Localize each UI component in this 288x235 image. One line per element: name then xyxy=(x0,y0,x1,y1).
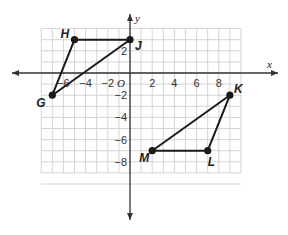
vertex-label-G: G xyxy=(36,96,45,110)
vertex-label-J: J xyxy=(135,39,142,53)
vertex-point-H xyxy=(71,36,78,43)
x-tick-label: 8 xyxy=(216,77,222,89)
y-tick-label: −4 xyxy=(114,111,127,123)
vertex-point-G xyxy=(49,92,56,99)
x-tick-label: −4 xyxy=(79,77,92,89)
x-axis-label: x xyxy=(266,58,272,70)
vertex-point-M xyxy=(149,147,156,154)
y-tick-label: −2 xyxy=(114,89,127,101)
coordinate-plane: −6−4−224682−2−4−6−8 HJGKLM x y O xyxy=(0,0,288,235)
vertex-point-K xyxy=(226,92,233,99)
vertex-label-M: M xyxy=(139,151,150,165)
triangle-KLM xyxy=(152,95,230,151)
y-tick-label: −8 xyxy=(114,156,127,168)
origin-label: O xyxy=(117,77,125,89)
y-tick-label: −6 xyxy=(114,134,127,146)
vertex-label-H: H xyxy=(61,27,70,41)
vertex-point-L xyxy=(204,147,211,154)
x-axis-left-arrow-icon xyxy=(12,70,19,76)
x-axis-right-arrow-icon xyxy=(271,70,278,76)
triangles: HJGKLM xyxy=(36,27,244,169)
y-axis-down-arrow-icon xyxy=(127,213,133,220)
x-tick-label: −2 xyxy=(102,77,115,89)
vertex-label-K: K xyxy=(234,82,244,96)
vertex-label-L: L xyxy=(208,155,215,169)
vertex-point-J xyxy=(126,36,133,43)
x-tick-label: 6 xyxy=(194,77,200,89)
y-axis-label: y xyxy=(134,12,140,24)
x-tick-label: 2 xyxy=(149,77,155,89)
x-tick-label: 4 xyxy=(171,77,177,89)
y-axis-up-arrow-icon xyxy=(127,14,133,21)
